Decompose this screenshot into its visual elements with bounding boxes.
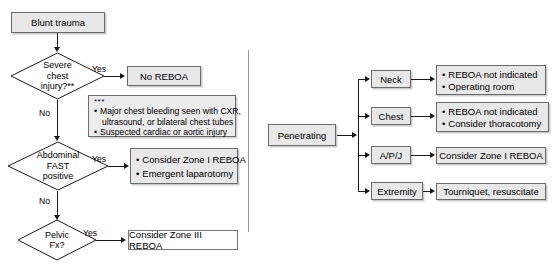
node-no-reboa: No REBOA: [127, 66, 201, 86]
node-penetrating: Penetrating: [268, 124, 336, 146]
connector-d3-yes: [96, 240, 123, 241]
note-severe-chest-criteria: *** •Major chest bleeding seen with CXR,…: [88, 95, 236, 137]
decision-pelvic-fx: Pelvic Fx?: [17, 219, 97, 261]
outcome-chest-line-1: REBOA not indicated: [442, 106, 548, 117]
edge-label-d1-no: No: [39, 108, 50, 118]
node-no-reboa-label: No REBOA: [140, 71, 188, 82]
arrowhead-bus-to-neck: [365, 76, 370, 82]
node-outcome-extremity: Tourniquet, resuscitate: [436, 183, 546, 200]
node-zone-iii-reboa-label: Consider Zone III REBOA: [129, 229, 237, 251]
node-outcome-apj-label: Consider Zone I REBOA: [439, 150, 543, 161]
edge-label-d2-yes: Yes: [92, 154, 106, 164]
node-zone-i-reboa-laparotomy: Consider Zone I REBOA Emergent laparotom…: [130, 148, 238, 184]
decision-severe-chest-injury-label: Severe chest injury?**: [41, 60, 75, 92]
note-line-1: •Major chest bleeding seen with CXR,: [94, 106, 231, 117]
edge-label-d2-no: No: [39, 196, 50, 206]
node-branch-apj: A/P/J: [371, 146, 411, 164]
node-branch-apj-label: A/P/J: [380, 150, 403, 161]
edge-label-d1-yes: Yes: [92, 64, 106, 74]
node-penetrating-label: Penetrating: [278, 130, 327, 141]
node-outcome-apj: Consider Zone I REBOA: [436, 147, 546, 164]
node-branch-neck-label: Neck: [380, 74, 402, 85]
outcome2-line-2: Emergent laparotomy: [136, 168, 237, 179]
node-blunt-trauma-label: Blunt trauma: [31, 17, 85, 28]
vertical-divider: [248, 50, 249, 232]
node-branch-chest: Chest: [371, 107, 411, 125]
arrowhead-neck-to-outcome: [430, 76, 435, 82]
outcome-neck-line-2: Operating room: [442, 81, 545, 92]
arrowhead-d3-yes: [121, 237, 126, 243]
node-branch-neck: Neck: [371, 70, 411, 88]
arrowhead-bus-to-chest: [365, 113, 370, 119]
connector-apj-to-outcome: [411, 155, 432, 156]
node-outcome-chest: REBOA not indicated Consider thoracotomy: [436, 102, 549, 132]
node-blunt-trauma: Blunt trauma: [11, 12, 105, 33]
arrowhead-bus-to-extremity: [365, 188, 370, 194]
outcome2-line-1: Consider Zone I REBOA: [136, 154, 237, 165]
decision-pelvic-fx-label: Pelvic Fx?: [45, 230, 69, 251]
arrowhead-extremity-to-outcome: [430, 188, 435, 194]
note-marker: ***: [94, 98, 231, 105]
note-line-2: ultrasound, or bilateral chest tubes: [94, 117, 231, 128]
connector-d1-to-d2: [57, 100, 58, 138]
node-outcome-neck: REBOA not indicated Operating room: [436, 65, 546, 95]
node-branch-chest-label: Chest: [379, 111, 404, 122]
arrowhead-d1-yes: [120, 73, 125, 79]
node-branch-extremity-label: Extremity: [377, 186, 417, 197]
node-zone-iii-reboa: Consider Zone III REBOA: [128, 230, 238, 250]
flowchart-canvas: Blunt trauma Severe chest injury?** Yes …: [0, 0, 553, 271]
node-outcome-extremity-label: Tourniquet, resuscitate: [443, 186, 539, 197]
connector-d2-to-d3: [57, 191, 58, 217]
node-branch-extremity: Extremity: [371, 182, 423, 200]
arrowhead-d2-yes: [124, 163, 129, 169]
note-line-3: •Suspected cardiac or aortic injury: [94, 127, 231, 138]
arrowhead-penetrating-trunk: [352, 132, 357, 138]
decision-abdominal-fast-label: Abdominal FAST positive: [37, 150, 80, 182]
edge-label-d3-yes: Yes: [83, 228, 97, 238]
outcome-neck-line-1: REBOA not indicated: [442, 69, 545, 80]
connector-branch-bus: [358, 79, 359, 191]
connector-chest-to-outcome: [411, 116, 432, 117]
arrowhead-apj-to-outcome: [430, 152, 435, 158]
arrowhead-bus-to-apj: [365, 152, 370, 158]
connector-neck-to-outcome: [411, 79, 432, 80]
decision-severe-chest-injury: Severe chest injury?**: [10, 52, 105, 100]
arrowhead-chest-to-outcome: [430, 113, 435, 119]
decision-abdominal-fast: Abdominal FAST positive: [7, 141, 109, 191]
outcome-chest-line-2: Consider thoracotomy: [442, 118, 548, 129]
